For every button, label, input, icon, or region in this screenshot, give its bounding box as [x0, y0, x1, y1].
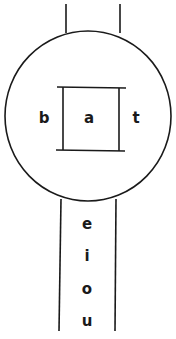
box-bottom-line	[56, 150, 125, 151]
label-e: e	[82, 215, 92, 233]
box-top-line	[57, 87, 126, 88]
diagram: b a t e i o u	[0, 0, 176, 339]
label-u: u	[82, 312, 93, 330]
label-t: t	[132, 109, 139, 127]
label-o: o	[82, 280, 92, 298]
lower-stem-right-line	[115, 199, 116, 331]
label-a: a	[84, 109, 94, 127]
lower-stem-left-line	[59, 199, 61, 331]
label-b: b	[39, 109, 50, 127]
label-i: i	[84, 247, 89, 265]
